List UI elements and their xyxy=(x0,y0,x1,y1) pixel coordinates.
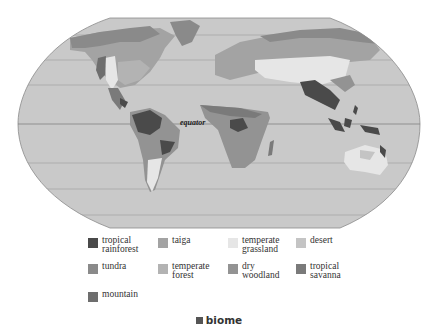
equator-label: equator xyxy=(180,118,206,127)
swatch-temperate-grassland xyxy=(228,238,238,248)
legend-label: mountain xyxy=(102,290,138,299)
legend-item-mountain: mountain xyxy=(88,290,138,302)
legend-item-tropical-rainforest: tropical rainforest xyxy=(88,236,138,254)
swatch-tropical-savanna xyxy=(296,264,306,274)
legend-label: taiga xyxy=(172,236,190,245)
square-bullet-icon xyxy=(196,317,203,324)
swatch-taiga xyxy=(158,238,168,248)
legend-item-temperate-grassland: temperate grassland xyxy=(228,236,279,254)
legend-label: temperate grassland xyxy=(242,236,279,254)
swatch-desert xyxy=(296,238,306,248)
swatch-mountain xyxy=(88,292,98,302)
legend-item-taiga: taiga xyxy=(158,236,190,248)
legend-item-temperate-forest: temperate forest xyxy=(158,262,209,280)
caption-label: biome xyxy=(206,314,242,326)
legend-label: temperate forest xyxy=(172,262,209,280)
legend-item-tundra: tundra xyxy=(88,262,126,274)
swatch-tundra xyxy=(88,264,98,274)
world-biome-map: equator xyxy=(0,0,438,232)
legend-item-tropical-savanna: tropical savanna xyxy=(296,262,341,280)
legend-label: tundra xyxy=(102,262,126,271)
legend-label: tropical rainforest xyxy=(102,236,138,254)
swatch-dry-woodland xyxy=(228,264,238,274)
legend-label: tropical savanna xyxy=(310,262,341,280)
figure-caption: biome xyxy=(0,314,438,326)
legend-item-dry-woodland: dry woodland xyxy=(228,262,279,280)
swatch-temperate-forest xyxy=(158,264,168,274)
swatch-tropical-rainforest xyxy=(88,238,98,248)
legend-label: dry woodland xyxy=(242,262,279,280)
legend-label: desert xyxy=(310,236,333,245)
legend-item-desert: desert xyxy=(296,236,333,248)
